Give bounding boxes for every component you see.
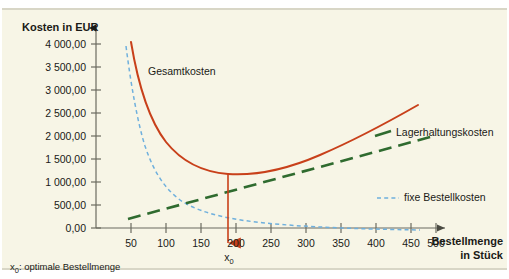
optimum-marker-label: x0 (216, 252, 242, 266)
y-tick-label-2000: 2 000,00 (24, 131, 86, 142)
series-line-lagerhaltungskosten (128, 136, 434, 219)
y-tick-label-0: 0,00 (24, 223, 86, 234)
x-tick-label-350: 350 (321, 238, 361, 249)
x-tick-label-250: 250 (251, 238, 291, 249)
series-label-lagerhaltungskosten: Lagerhaltungskosten (396, 127, 494, 138)
y-tick-label-1000: 1 000,00 (24, 177, 86, 188)
y-tick-label-3000: 3 000,00 (24, 85, 86, 96)
x-axis-title-line2: in Stück (385, 250, 503, 261)
chart-figure: Kosten in EUR 4 000,00 3 500,00 3 000,00… (0, 0, 509, 279)
y-tick-label-500: 500,00 (24, 200, 86, 211)
y-axis-title: Kosten in EUR (22, 22, 98, 33)
legend-swatch-lagerhaltungskosten (375, 131, 391, 136)
x-tick-label-50: 50 (111, 238, 151, 249)
x-tick-label-100: 100 (146, 238, 186, 249)
x-tick-label-150: 150 (181, 238, 221, 249)
x-tick-label-300: 300 (286, 238, 326, 249)
optimum-marker-label-sub: 0 (230, 257, 234, 266)
series-line-gesamtkosten (131, 42, 418, 174)
footnote-text: : optimale Bestellmenge (19, 261, 120, 272)
y-tick-label-3500: 3 500,00 (24, 62, 86, 73)
y-tick-label-4000: 4 000,00 (24, 39, 86, 50)
y-tick-label-2500: 2 500,00 (24, 108, 86, 119)
series-label-fixe-bestellkosten: fixe Bestellkosten (404, 192, 486, 203)
x-tick-label-200: 200 (216, 238, 256, 249)
series-label-gesamtkosten: Gesamtkosten (148, 66, 216, 77)
x-axis-title-line1: Bestellmenge (385, 236, 503, 247)
y-tick-label-1500: 1 500,00 (24, 154, 86, 165)
footnote: x0: optimale Bestellmenge (10, 262, 120, 274)
